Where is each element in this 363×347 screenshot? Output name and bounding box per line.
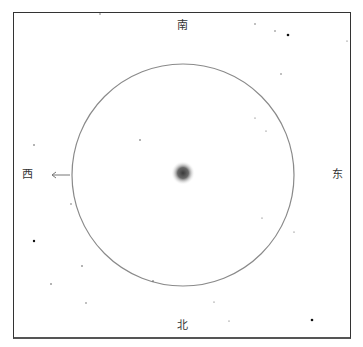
star xyxy=(33,240,35,242)
star xyxy=(274,30,275,31)
star xyxy=(254,23,255,24)
direction-north-label: 北 xyxy=(177,320,188,332)
star xyxy=(287,34,290,37)
star xyxy=(311,319,314,322)
star xyxy=(346,40,347,41)
zenith-object xyxy=(171,161,195,185)
star xyxy=(99,13,100,14)
star xyxy=(280,73,281,74)
star xyxy=(50,283,52,285)
direction-east-label: 东 xyxy=(332,169,343,181)
direction-south-label: 南 xyxy=(177,20,188,32)
star xyxy=(81,265,83,267)
star xyxy=(293,231,294,232)
direction-west-label: 西 xyxy=(22,169,33,181)
star xyxy=(213,301,214,302)
star xyxy=(152,280,154,282)
star xyxy=(265,130,266,131)
star-chart xyxy=(0,0,363,347)
star xyxy=(139,139,141,141)
star xyxy=(70,203,71,204)
star xyxy=(228,320,229,321)
star xyxy=(254,117,255,118)
west-arrow-icon xyxy=(52,172,70,178)
star xyxy=(261,217,262,218)
star xyxy=(85,302,86,303)
star xyxy=(33,144,35,146)
